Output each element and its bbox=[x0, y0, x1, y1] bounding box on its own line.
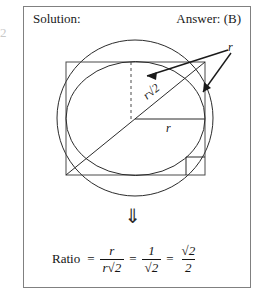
formula-fraction-2: 1 √2 bbox=[142, 244, 162, 274]
page-root: 2 Solution: Answer: (B) r bbox=[0, 0, 264, 298]
fraction-2-numerator: 1 bbox=[145, 244, 158, 259]
formula-fraction-3: √2 2 bbox=[179, 244, 199, 274]
formula-equals-3: = bbox=[166, 251, 173, 267]
formula-fraction-1: r r√2 bbox=[100, 244, 125, 274]
fraction-3-denominator: 2 bbox=[182, 259, 195, 275]
formula-equals-2: = bbox=[129, 251, 136, 267]
down-arrow-icon: ⇓ bbox=[118, 203, 148, 231]
formula-label: Ratio bbox=[52, 251, 80, 267]
solution-label: Solution: bbox=[33, 11, 81, 27]
header-row: Solution: Answer: (B) bbox=[24, 8, 250, 28]
fraction-1-numerator: r bbox=[106, 244, 117, 259]
fraction-2-denominator: √2 bbox=[142, 259, 162, 275]
page-edge-artifact: 2 bbox=[0, 26, 12, 56]
fraction-1-denominator: r√2 bbox=[100, 259, 125, 275]
fraction-3-numerator: √2 bbox=[179, 244, 199, 259]
answer-label: Answer: (B) bbox=[176, 11, 241, 27]
ratio-formula: Ratio = r r√2 = 1 √2 = √2 2 bbox=[52, 239, 222, 279]
formula-equals-1: = bbox=[87, 251, 94, 267]
